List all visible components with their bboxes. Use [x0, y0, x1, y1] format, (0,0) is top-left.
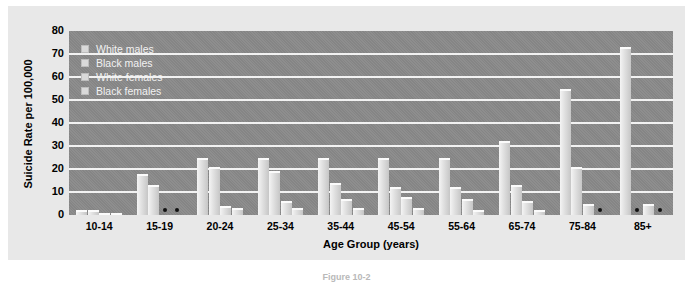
bar-group: [492, 31, 552, 215]
bar: [450, 187, 461, 215]
bar: [258, 158, 269, 216]
suppressed-value-marker: [658, 208, 662, 212]
bar: [620, 47, 631, 215]
x-tick-label: 75-84: [552, 220, 612, 232]
bar-top-highlight: [353, 208, 364, 210]
y-tick-label: 10: [6, 186, 64, 197]
bar-top-highlight: [330, 183, 341, 185]
bar-fill: [281, 201, 292, 215]
x-tick-label: 55-64: [431, 220, 491, 232]
bar-top-highlight: [232, 208, 243, 210]
bar-top-highlight: [220, 206, 231, 208]
bar: [220, 206, 231, 215]
bar: [148, 185, 159, 215]
suppressed-value-marker: [163, 208, 167, 212]
bar-top-highlight: [76, 210, 87, 212]
x-tick-label: 35-44: [311, 220, 371, 232]
legend-swatch-black-males: [81, 59, 89, 67]
y-tick-label: 0: [6, 209, 64, 220]
legend-item-label: White males: [96, 43, 154, 55]
bar-top-highlight: [148, 185, 159, 187]
bar: [209, 167, 220, 215]
bar: [378, 158, 389, 216]
bar-group: [371, 31, 431, 215]
bar: [88, 210, 99, 215]
bar-fill: [522, 201, 533, 215]
bar-top-highlight: [450, 187, 461, 189]
bar-top-highlight: [439, 158, 450, 160]
bar: [560, 89, 571, 216]
bar-group: [552, 31, 612, 215]
legend-swatch-black-females: [81, 87, 89, 95]
legend-item-label: White females: [96, 71, 163, 83]
bar-fill: [258, 158, 269, 216]
bar-top-highlight: [534, 210, 545, 212]
bar-top-highlight: [390, 187, 401, 189]
legend-item-label: Black females: [96, 85, 161, 97]
bar: [232, 208, 243, 215]
bar: [111, 213, 122, 215]
bar-top-highlight: [197, 158, 208, 160]
legend-item: Black females: [81, 84, 211, 97]
bar-fill: [462, 199, 473, 215]
suppressed-value-marker: [635, 208, 639, 212]
y-tick-label: 80: [6, 25, 64, 36]
bar: [643, 204, 654, 216]
bar-top-highlight: [499, 141, 510, 143]
bar-top-highlight: [292, 208, 303, 210]
bar-top-highlight: [583, 204, 594, 206]
x-tick-label: 15-19: [129, 220, 189, 232]
legend-item: Black males: [81, 56, 211, 69]
bar-fill: [401, 197, 412, 215]
bar-group: [431, 31, 491, 215]
legend-swatch-white-females: [81, 73, 89, 81]
bar-top-highlight: [111, 213, 122, 215]
bar-top-highlight: [620, 47, 631, 49]
bar-fill: [439, 158, 450, 216]
bar: [197, 158, 208, 216]
bar-group: [250, 31, 310, 215]
legend-item-label: Black males: [96, 57, 153, 69]
x-tick-label: 45-54: [371, 220, 431, 232]
bar-fill: [137, 174, 148, 215]
bar-top-highlight: [560, 89, 571, 91]
bar-fill: [341, 199, 352, 215]
bar-top-highlight: [522, 201, 533, 203]
suppressed-value-marker: [175, 208, 179, 212]
bar-top-highlight: [341, 199, 352, 201]
bar-fill: [148, 185, 159, 215]
bar-top-highlight: [462, 199, 473, 201]
bar: [439, 158, 450, 216]
bar-top-highlight: [88, 210, 99, 212]
suppressed-value-marker: [598, 208, 602, 212]
bar-top-highlight: [318, 158, 329, 160]
bar-top-highlight: [378, 158, 389, 160]
bar-top-highlight: [413, 208, 424, 210]
x-tick-label: 25-34: [250, 220, 310, 232]
bar-top-highlight: [281, 201, 292, 203]
bar-fill: [499, 141, 510, 215]
y-tick-label: 60: [6, 71, 64, 82]
bar-fill: [378, 158, 389, 216]
bar-group: [311, 31, 371, 215]
bar: [583, 204, 594, 216]
bar-fill: [197, 158, 208, 216]
bar: [534, 210, 545, 215]
bar-fill: [571, 167, 582, 215]
bar-top-highlight: [473, 210, 484, 212]
bar: [522, 201, 533, 215]
chart-legend: White malesBlack malesWhite femalesBlack…: [81, 42, 211, 98]
x-tick-label: 20-24: [190, 220, 250, 232]
bar-top-highlight: [258, 158, 269, 160]
x-axis-tick-labels: 10-1415-1920-2425-3435-4445-5455-6465-74…: [69, 220, 673, 236]
x-axis-label: Age Group (years): [69, 238, 673, 250]
bar: [390, 187, 401, 215]
bar: [341, 199, 352, 215]
bar-top-highlight: [137, 174, 148, 176]
bar: [353, 208, 364, 215]
y-axis-tick-labels: 01020304050607080: [0, 0, 64, 254]
bar: [137, 174, 148, 215]
bar: [499, 141, 510, 215]
y-tick-label: 20: [6, 163, 64, 174]
bar: [413, 208, 424, 215]
